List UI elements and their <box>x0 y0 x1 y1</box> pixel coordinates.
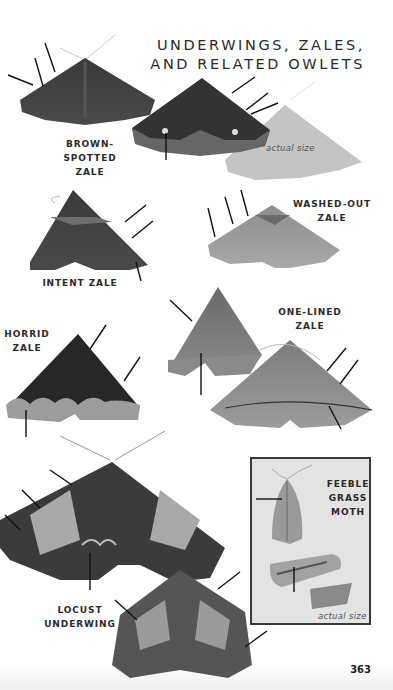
one-lined-zale-moth-1 <box>168 287 262 376</box>
label-line: UNDERWING <box>40 617 120 631</box>
label-line: LOCUST <box>40 603 120 617</box>
label-line: INTENT ZALE <box>40 276 120 290</box>
locust-underwing-moth-1 <box>0 431 225 582</box>
species-label-one-lined-zale: ONE-LINED ZALE <box>275 305 345 333</box>
species-label-brown-spotted-zale: BROWN-SPOTTED ZALE <box>40 137 140 179</box>
locust-underwing-moth-2 <box>112 570 252 678</box>
intent-zale-moth <box>30 190 148 270</box>
actual-size-label-brown-spotted-zale: actual size <box>266 143 315 153</box>
species-label-intent-zale: INTENT ZALE <box>40 276 120 290</box>
species-label-washed-out-zale: WASHED-OUT ZALE <box>292 197 372 225</box>
label-line: ZALE <box>292 211 372 225</box>
species-label-locust-underwing: LOCUST UNDERWING <box>40 603 120 631</box>
label-line: ONE-LINED <box>275 305 345 319</box>
species-label-feeble-grass-moth: FEEBLE GRASS MOTH <box>326 477 370 519</box>
label-line: ZALE <box>2 341 52 355</box>
label-line: HORRID <box>2 327 52 341</box>
brown-spotted-zale-moth-2 <box>132 78 270 156</box>
brown-spotted-zale-moth-1 <box>20 35 155 125</box>
feeble-grass-moth-inset: FEEBLE GRASS MOTH actual size <box>250 457 371 625</box>
field-guide-page: UNDERWINGS, ZALES, AND RELATED OWLETS <box>0 0 393 690</box>
label-line: MOTH <box>326 505 370 519</box>
label-line: GRASS <box>326 491 370 505</box>
label-line: ZALE <box>40 165 140 179</box>
label-line: WASHED-OUT <box>292 197 372 211</box>
species-label-horrid-zale: HORRID ZALE <box>2 327 52 355</box>
page-number: 363 <box>350 664 371 675</box>
label-line: BROWN-SPOTTED <box>40 137 140 165</box>
label-line: ZALE <box>275 319 345 333</box>
actual-size-label-feeble-grass-moth: actual size <box>318 611 367 621</box>
label-line: FEEBLE <box>326 477 370 491</box>
